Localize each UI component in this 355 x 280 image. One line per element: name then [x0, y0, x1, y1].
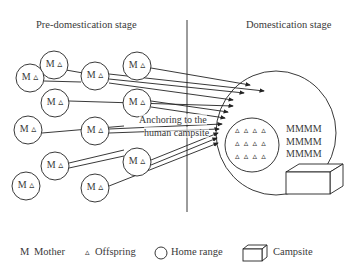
node-label: M ▵ [45, 159, 65, 170]
offspring-legend-icon: ▵ [85, 247, 90, 257]
mother-row: MMMM [286, 123, 322, 136]
home-range-legend-label: Home range [171, 246, 223, 257]
mother-group: MMMM MMMM MMMM [286, 123, 322, 161]
node-label: M ▵ [20, 71, 40, 82]
node-label: M ▵ [85, 69, 105, 80]
node-label: M ▵ [45, 96, 65, 107]
node-label: M ▵ [127, 59, 147, 70]
offspring-row: ▵ ▵ ▵ ▵ [235, 137, 267, 150]
mother-row: MMMM [286, 148, 322, 161]
campsite-legend-label: Campsite [273, 246, 313, 257]
offspring-row: ▵ ▵ ▵ ▵ [235, 124, 267, 137]
arrow-label-line1: Anchoring to the [139, 114, 207, 125]
mother-legend-symbol: M [20, 246, 29, 257]
node-label: M ▵ [85, 181, 105, 192]
node-label: M ▵ [127, 155, 147, 166]
node-label: M ▵ [44, 58, 64, 69]
domestication-title: Domestication stage [246, 19, 331, 30]
mother-legend-label: Mother [34, 246, 65, 257]
node-label: M ▵ [16, 179, 36, 190]
node-label: M ▵ [85, 124, 105, 135]
offspring-group: ▵ ▵ ▵ ▵ ▵ ▵ ▵ ▵ ▵ ▵ ▵ ▵ [235, 124, 267, 163]
offspring-legend-label: Offspring [95, 246, 136, 257]
mother-row: MMMM [286, 136, 322, 149]
offspring-row: ▵ ▵ ▵ ▵ [235, 150, 267, 163]
campsite-box [286, 164, 343, 194]
node-label: M ▵ [127, 96, 147, 107]
node-label: M ▵ [18, 123, 38, 134]
pre-domestication-title: Pre-domestication stage [36, 19, 137, 30]
legend: M Mother ▵ Offspring Home range Campsite [0, 246, 355, 262]
arrow-label-line2: human campsite [144, 127, 209, 138]
